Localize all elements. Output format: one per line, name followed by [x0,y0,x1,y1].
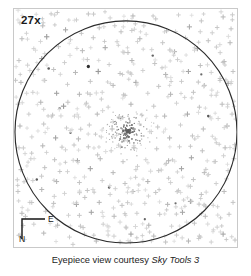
compass-indicator: E N [17,209,63,243]
star-marker [107,124,108,125]
star-marker [120,134,121,135]
star-marker [147,137,148,138]
star-marker [112,111,113,112]
star-marker [114,137,115,138]
star-marker [151,133,152,134]
star-marker [120,138,121,139]
star-marker [126,132,128,134]
star-marker [146,110,147,111]
star-marker [116,122,117,123]
star-marker [116,147,117,148]
star-marker [127,122,128,123]
star-marker [200,73,202,75]
star-marker [123,126,124,127]
star-marker [47,67,50,70]
star-marker [136,133,137,134]
star-marker [116,132,117,133]
star-marker [110,122,111,123]
star-marker [145,120,146,121]
star-marker [125,121,127,123]
star-marker [115,131,116,132]
star-marker [125,134,127,136]
star-marker [126,129,128,131]
star-marker [125,138,126,139]
star-marker [127,115,128,116]
star-marker [123,134,124,135]
star-marker [126,136,127,137]
star-marker [141,133,142,134]
star-marker [114,148,115,149]
star-marker [133,127,134,128]
figure-caption: Eyepiece view courtesy Sky Tools 3 [0,255,251,266]
star-marker [136,155,137,156]
star-marker [146,128,147,129]
star-marker [139,140,141,142]
star-marker [119,114,120,115]
star-marker [122,146,123,147]
star-marker [113,121,114,122]
star-marker [129,133,131,135]
star-marker [123,124,125,126]
star-marker [131,138,133,140]
star-marker [141,144,142,145]
star-marker [140,124,141,125]
star-marker [128,118,129,119]
star-marker [131,124,133,126]
star-marker [131,131,133,133]
star-marker [106,137,107,138]
star-marker [115,123,117,125]
star-marker [119,140,120,141]
star-marker [149,141,150,142]
star-marker [118,129,119,130]
star-marker [140,143,141,144]
star-marker [123,138,124,139]
star-marker [111,147,112,148]
star-marker [153,122,154,123]
compass-axis-lines [22,219,45,239]
star-marker [140,113,141,114]
star-marker [113,134,114,135]
star-marker [137,113,138,114]
star-marker [116,126,117,127]
star-marker [99,135,100,136]
star-marker [118,133,120,135]
star-marker [103,127,104,128]
star-marker [143,126,144,127]
star-marker [144,218,146,220]
magnification-label: 27x [21,15,41,27]
star-marker [129,142,130,143]
star-marker [207,115,210,118]
star-marker [151,125,152,126]
star-marker [134,150,135,151]
star-marker [116,129,118,131]
star-marker [133,130,134,131]
star-marker [152,54,154,56]
eyepiece-chart-frame: 27x E N [13,8,238,248]
star-marker [106,132,107,133]
star-marker [137,142,138,143]
star-marker [111,119,112,120]
caption-prefix-text: Eyepiece view courtesy [52,255,152,265]
star-marker [134,128,136,130]
star-marker [109,139,110,140]
star-marker [108,133,109,134]
star-marker [114,124,115,125]
star-marker [123,140,124,141]
star-marker [136,150,137,151]
caption-source-title: Sky Tools 3 [152,255,200,265]
star-marker [109,126,110,127]
star-marker [36,178,38,180]
star-marker [112,141,113,142]
star-marker [128,136,129,137]
star-marker [87,65,90,68]
star-marker [121,141,123,143]
star-marker [129,129,131,131]
eyepiece-view-figure: 27x E N Eyepiece view courtesy Sky Tools… [0,0,251,276]
star-marker [156,137,157,138]
star-marker [128,140,130,142]
star-marker [174,202,176,204]
star-marker [121,132,122,133]
star-marker [123,133,125,135]
star-marker [122,116,123,117]
star-marker [142,115,143,116]
